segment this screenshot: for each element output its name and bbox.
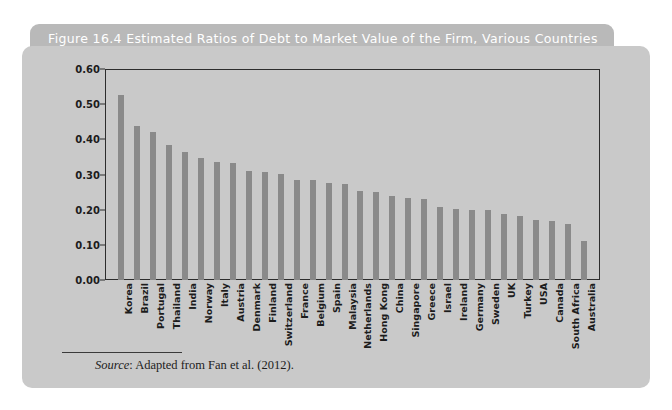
x-axis-tick-label: China [396, 283, 403, 313]
bar [262, 172, 268, 280]
x-axis-tick-label: Singapore [412, 283, 419, 338]
x-axis-tick-label: Australia [588, 283, 595, 331]
bar [150, 132, 156, 280]
bar [342, 184, 348, 280]
y-axis-tick-mark [100, 69, 105, 70]
bar [246, 171, 252, 280]
y-axis-tick-label: 0.50 [75, 99, 100, 110]
bar [326, 183, 332, 280]
y-axis: 0.000.100.200.300.400.500.60 [60, 69, 100, 280]
bar [453, 209, 459, 280]
x-axis-tick-label: Switzerland [285, 283, 292, 346]
bar [182, 152, 188, 280]
y-axis-tick-label: 0.20 [75, 204, 100, 215]
x-axis-tick-label: USA [540, 283, 547, 305]
y-axis-tick-label: 0.40 [75, 134, 100, 145]
x-axis-tick-label: Canada [556, 283, 563, 323]
source-note: Source: Adapted from Fan et al. (2012). [95, 358, 294, 373]
bar [310, 180, 316, 280]
page-title: Figure 16.4 Estimated Ratios of Debt to … [48, 31, 598, 46]
x-axis-tick-label: Sweden [492, 283, 499, 325]
x-axis-tick-label: South Africa [572, 283, 579, 349]
x-axis-tick-label: Finland [269, 283, 276, 323]
x-axis-tick-label: France [301, 283, 308, 319]
y-axis-tick-mark [100, 139, 105, 140]
x-axis-tick-label: UK [508, 283, 515, 298]
x-axis-tick-label: Austria [237, 283, 244, 322]
x-axis: KoreaBrazilPortugalThailandIndiaNorwayIt… [105, 283, 600, 361]
y-axis-tick-mark [100, 209, 105, 210]
y-axis-tick-mark [100, 104, 105, 105]
x-axis-tick-label: Greece [428, 283, 435, 320]
bar [118, 95, 124, 280]
x-axis-tick-label: Turkey [524, 283, 531, 319]
bar [278, 174, 284, 280]
source-divider [62, 352, 182, 353]
bar-chart-plot-area [105, 69, 600, 280]
bar [230, 163, 236, 280]
bar [134, 126, 140, 280]
x-axis-tick-label: Israel [444, 283, 451, 313]
bar [485, 210, 491, 280]
bar [533, 220, 539, 280]
bar [357, 191, 363, 280]
source-text: : Adapted from Fan et al. (2012). [129, 358, 294, 372]
bar [373, 192, 379, 280]
source-label: Source [95, 358, 129, 372]
bar [549, 221, 555, 280]
figure-container: Figure 16.4 Estimated Ratios of Debt to … [0, 0, 672, 410]
x-axis-tick-label: Korea [125, 283, 132, 314]
bar [565, 224, 571, 280]
bar [437, 207, 443, 280]
x-axis-tick-label: Ireland [460, 283, 467, 321]
x-axis-tick-label: Portugal [157, 283, 164, 329]
bar [294, 180, 300, 280]
bar [214, 162, 220, 280]
y-axis-tick-label: 0.30 [75, 169, 100, 180]
bar [405, 198, 411, 280]
y-axis-tick-label: 0.60 [75, 64, 100, 75]
bar [501, 214, 507, 280]
y-axis-tick-mark [100, 280, 105, 281]
bar [581, 241, 587, 280]
x-axis-tick-label: India [189, 283, 196, 310]
x-axis-tick-label: Thailand [173, 283, 180, 329]
x-axis-tick-label: Brazil [141, 283, 148, 313]
bar [517, 216, 523, 280]
bar [389, 196, 395, 280]
x-axis-tick-label: Netherlands [364, 283, 371, 349]
x-axis-tick-label: Germany [476, 283, 483, 331]
x-axis-tick-label: Hong Kong [380, 283, 387, 342]
y-axis-tick-label: 0.00 [75, 275, 100, 286]
y-axis-tick-mark [100, 174, 105, 175]
x-axis-tick-label: Norway [205, 283, 212, 323]
x-axis-tick-label: Spain [333, 283, 340, 313]
x-axis-tick-label: Malaysia [349, 283, 356, 330]
x-axis-tick-label: Denmark [253, 283, 260, 331]
bar [198, 158, 204, 280]
y-axis-tick-mark [100, 244, 105, 245]
bar [421, 199, 427, 280]
bar [166, 145, 172, 280]
x-axis-tick-label: Belgium [317, 283, 324, 327]
bar [469, 210, 475, 280]
y-axis-tick-label: 0.10 [75, 239, 100, 250]
x-axis-tick-label: Italy [221, 283, 228, 307]
